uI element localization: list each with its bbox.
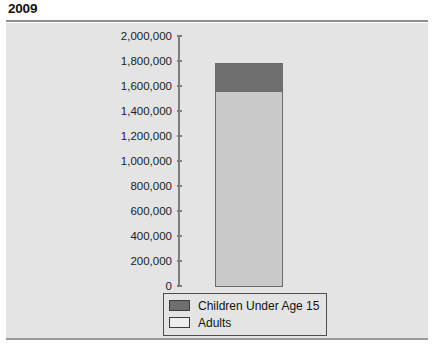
y-axis-tick-mark: [177, 210, 182, 212]
legend-label-children: Children Under Age 15: [198, 299, 319, 313]
y-axis-tick-mark: [177, 85, 182, 87]
y-axis-tick-mark: [177, 110, 182, 112]
y-axis-tick-label: 2,000,000: [121, 29, 172, 43]
page-title: 2009: [8, 1, 37, 16]
title-block: 2009: [0, 0, 432, 22]
y-axis-tick-label: 800,000: [130, 179, 172, 193]
y-axis-tick: 800,000: [6, 179, 182, 193]
legend-swatch-icon-children: [169, 300, 190, 311]
y-axis-tick: 600,000: [6, 204, 182, 218]
y-axis-tick-label: 1,200,000: [121, 129, 172, 143]
plot-area: 2,000,0001,800,0001,600,0001,400,0001,20…: [6, 23, 428, 340]
y-axis-tick-label: 1,400,000: [121, 104, 172, 118]
legend-item-children-under-age-15[interactable]: Children Under Age 15: [169, 297, 319, 314]
y-axis-tick: 1,800,000: [6, 54, 182, 68]
legend-swatch-icon-adults: [169, 317, 190, 328]
y-axis-tick-mark: [177, 135, 182, 137]
y-axis-tick-label: 1,600,000: [121, 79, 172, 93]
legend-item-adults[interactable]: Adults: [169, 314, 319, 331]
y-axis-tick: 200,000: [6, 254, 182, 268]
y-axis-tick-mark: [177, 60, 182, 62]
y-axis-tick: 1,600,000: [6, 79, 182, 93]
chart-panel: 2,000,0001,800,0001,600,0001,400,0001,20…: [6, 23, 428, 340]
legend-label-adults: Adults: [198, 316, 231, 330]
y-axis-tick: 2,000,000: [6, 29, 182, 43]
y-axis-tick: 1,000,000: [6, 154, 182, 168]
y-axis-tick-mark: [177, 35, 182, 37]
y-axis-tick-label: 1,800,000: [121, 54, 172, 68]
bar-column-2009[interactable]: [215, 63, 283, 286]
y-axis-tick-label: 200,000: [130, 254, 172, 268]
bar-segment-children-under-age-15[interactable]: [215, 63, 283, 92]
y-axis-tick: 400,000: [6, 229, 182, 243]
y-axis-tick-label: 0: [166, 279, 172, 293]
y-axis-tick: 0: [6, 279, 182, 293]
y-axis-tick-mark: [177, 185, 182, 187]
title-divider: [6, 20, 428, 22]
y-axis-tick-mark: [177, 160, 182, 162]
y-axis-tick: 1,400,000: [6, 104, 182, 118]
y-axis-tick: 1,200,000: [6, 129, 182, 143]
y-axis-tick-mark: [177, 285, 182, 287]
y-axis-tick-label: 400,000: [130, 229, 172, 243]
y-axis-tick-mark: [177, 260, 182, 262]
y-axis-tick-label: 600,000: [130, 204, 172, 218]
y-axis-tick-label: 1,000,000: [121, 154, 172, 168]
y-axis-tick-mark: [177, 235, 182, 237]
bar-segment-adults[interactable]: [215, 91, 283, 287]
chart-legend: Children Under Age 15 Adults: [163, 293, 327, 336]
